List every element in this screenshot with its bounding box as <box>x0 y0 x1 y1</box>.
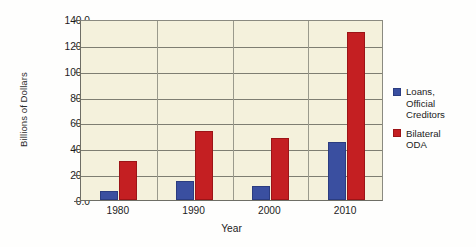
bar-2000-series-0 <box>252 186 270 200</box>
x-axis-tick-label: 1980 <box>78 205 158 216</box>
x-axis-tick-label: 2010 <box>305 205 385 216</box>
bar-1990-series-0 <box>176 181 194 200</box>
legend-item-loans-official-creditors: Loans, Official Creditors <box>393 86 476 121</box>
category-divider <box>308 21 309 200</box>
category-divider <box>157 21 158 200</box>
gridline <box>81 99 382 100</box>
legend: Loans, Official Creditors Bilateral ODA <box>393 86 476 158</box>
gridline <box>81 47 382 48</box>
bar-chart: Billions of Dollars 0.020.040.060.080.01… <box>0 0 476 247</box>
legend-swatch-icon-series-0 <box>393 88 401 96</box>
x-axis-tick-label: 2000 <box>229 205 309 216</box>
x-axis-title: Year <box>80 223 383 234</box>
bar-2010-series-1 <box>347 32 365 200</box>
bar-2000-series-1 <box>271 138 289 200</box>
y-axis-tick-mark <box>74 201 80 202</box>
legend-label-series-0: Loans, Official Creditors <box>406 86 445 121</box>
legend-swatch-icon-series-1 <box>393 129 401 137</box>
legend-label-series-1: Bilateral ODA <box>406 128 441 151</box>
bar-1990-series-1 <box>195 131 213 200</box>
x-axis-tick-label: 1990 <box>154 205 234 216</box>
plot-area <box>80 20 383 201</box>
category-divider <box>233 21 234 200</box>
bar-2010-series-0 <box>328 142 346 200</box>
bar-1980-series-0 <box>100 191 118 200</box>
gridline <box>81 124 382 125</box>
y-axis-title: Billions of Dollars <box>18 40 29 180</box>
legend-item-bilateral-oda: Bilateral ODA <box>393 128 476 151</box>
bar-1980-series-1 <box>119 161 137 200</box>
gridline <box>81 73 382 74</box>
